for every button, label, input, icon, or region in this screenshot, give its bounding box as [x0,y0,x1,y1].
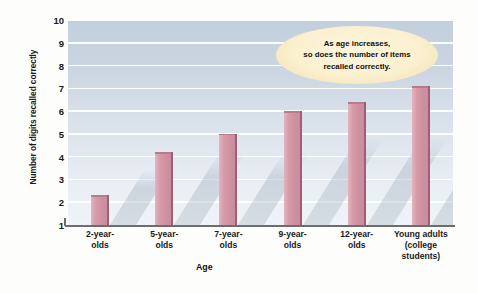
y-axis-tick-label: 8 [44,60,64,71]
y-axis-tick-labels: 12345678910 [44,20,64,225]
y-axis-tick-label: 9 [44,37,64,48]
decorative-band [303,137,384,225]
bar [412,86,430,225]
x-axis-line [65,225,455,227]
chart-figure: Number of digits recalled correctly 1234… [0,0,478,294]
gridline [68,156,453,158]
bar [348,102,366,225]
x-axis-tick-label: Young adults(collegestudents) [382,229,460,263]
y-axis-tick-label: 7 [44,83,64,94]
gridline [68,20,453,21]
y-axis-tick-label: 10 [44,15,64,26]
y-axis-title: Number of digits recalled correctly [28,22,38,212]
x-axis-tick-labels: 2-year-olds5-year-olds7-year-olds9-year-… [68,229,453,284]
annotation-callout: As age increases, so does the number of … [276,26,438,84]
x-axis-tick-label-line: (college [382,240,460,251]
y-axis-tick-label: 6 [44,106,64,117]
bar [91,195,109,225]
bar [284,111,302,225]
x-axis-tick-label-line: Young adults [382,229,460,240]
bar [155,152,173,225]
y-axis-tick-label: 5 [44,128,64,139]
y-axis-tick-label: 2 [44,197,64,208]
y-axis-tick-label: 4 [44,151,64,162]
x-axis-title: Age [196,262,213,272]
y-axis-origin-tick [64,218,66,226]
gridline [68,133,453,135]
y-axis-tick-label: 3 [44,174,64,185]
bar [219,134,237,225]
decorative-band [367,137,448,225]
gridline [68,110,453,112]
annotation-text: As age increases, so does the number of … [297,38,416,72]
x-axis-tick-label-line: students) [382,251,460,262]
gridline [68,88,453,90]
